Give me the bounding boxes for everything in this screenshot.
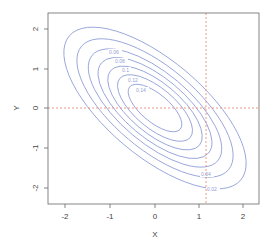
contour-plot: 0.06 0.08 0.1 0.12 0.14 0.04 0.02 -2 -1 … bbox=[0, 0, 275, 252]
contour-0.08 bbox=[82, 40, 228, 176]
y-tick-label: 2 bbox=[31, 26, 40, 31]
contour-label: 0.08 bbox=[115, 58, 125, 64]
contour-label: 0.12 bbox=[128, 77, 138, 83]
x-axis bbox=[65, 204, 243, 208]
x-tick-label: -1 bbox=[106, 212, 114, 221]
contour-0.14 bbox=[121, 76, 190, 140]
y-tick-label: -2 bbox=[31, 184, 40, 192]
y-axis-title: Y bbox=[12, 105, 21, 111]
contour-label: 0.14 bbox=[136, 87, 146, 93]
y-tick-label: 0 bbox=[31, 105, 40, 110]
x-tick-label: 0 bbox=[153, 212, 158, 221]
x-tick-label: 2 bbox=[241, 212, 246, 221]
contour-label: 0.06 bbox=[109, 49, 119, 55]
x-tick-label: -2 bbox=[61, 212, 69, 221]
x-tick-label: 1 bbox=[197, 212, 202, 221]
plot-frame bbox=[48, 13, 259, 204]
y-tick-label: 1 bbox=[31, 66, 40, 71]
contour-0.06 bbox=[70, 28, 241, 187]
contour-label: 0.1 bbox=[122, 67, 129, 73]
y-axis bbox=[44, 29, 48, 188]
x-axis-title: X bbox=[152, 230, 158, 239]
contour-label: 0.02 bbox=[207, 186, 217, 192]
y-tick-label: -1 bbox=[31, 144, 40, 152]
